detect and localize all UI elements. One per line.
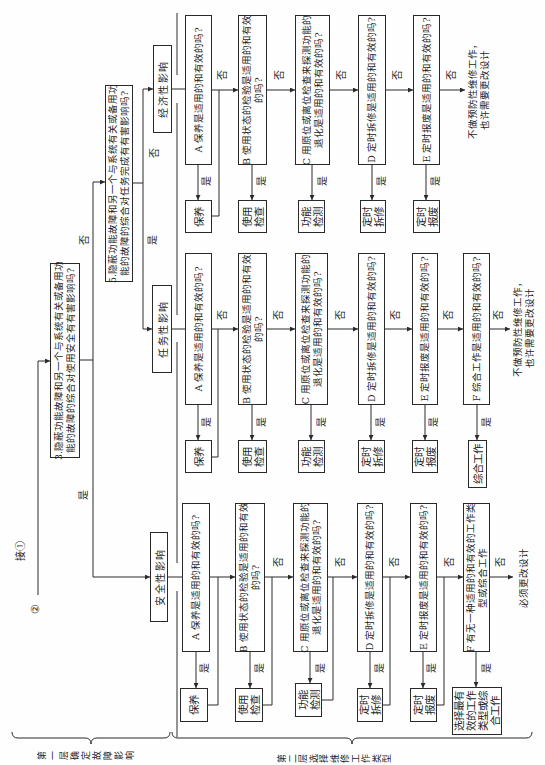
- economic-question-c: C 用原位或离位检查来探测功能的 退化是适用的和有效的吗?: [295, 15, 330, 165]
- economic-c-no-label: 否: [337, 70, 347, 80]
- mission-b-no-label: 否: [274, 310, 284, 320]
- safety-b-no-label: 否: [274, 557, 284, 567]
- mission-effect-box: 任务性影响: [152, 285, 172, 373]
- economic-task-functional-check: 功能 检测: [298, 200, 325, 233]
- safety-question-f: F 有无一种适用的和有效的工作类 型或综合工作: [463, 503, 490, 652]
- safety-effect-box: 安全性影响: [150, 532, 168, 622]
- mission-task-servicing: 保养: [185, 440, 212, 473]
- mission-question-a: A 保养是适用的和有效的吗?: [185, 253, 212, 405]
- safety-e-no-label: 否: [445, 557, 455, 567]
- economic-question-e: E 定时报废是适用的和有效的吗?: [413, 15, 440, 165]
- safety-task-discard: 定时 报废: [410, 688, 437, 722]
- mission-task-discard: 定时 报废: [412, 440, 438, 473]
- safety-task-restoration: 定时 拆修: [357, 688, 383, 722]
- layer-2-label: 第二层选择维修工作类型: [277, 751, 393, 764]
- safety-d-yes-label: 是: [375, 663, 385, 673]
- economic-task-servicing: 保养: [185, 200, 212, 233]
- mission-question-b: B 使用状态的检验是适用的和有效 的吗?: [238, 253, 267, 405]
- economic-outcome: 不做预防性维修工作， 也许需要更改设计: [467, 41, 491, 139]
- layer-1-label: 第一层确定故障影响: [37, 748, 136, 761]
- question-3-no-label: 否: [80, 235, 90, 245]
- question-5-yes-label: 是: [148, 235, 158, 245]
- mission-c-no-label: 否: [336, 310, 346, 320]
- connector-circle-2: ②: [31, 604, 41, 614]
- safety-a-yes-label: 是: [200, 663, 210, 673]
- safety-f-yes-label: 是: [482, 663, 492, 673]
- mission-task-combination: 综合工作: [468, 440, 487, 488]
- economic-b-no-label: 否: [275, 70, 285, 80]
- economic-e-no-label: 否: [447, 70, 457, 80]
- mission-outcome: 不做预防性维修工作， 也许需要更改设计: [512, 279, 536, 377]
- flowchart-rotated-canvas: ② 接① 3.隐蔽功能故障和另一个与系统有关或备用功 能的故障的综合对使用安全有…: [0, 0, 545, 765]
- mission-a-yes-label: 是: [202, 417, 212, 427]
- economic-b-yes-label: 是: [257, 176, 267, 186]
- safety-b-yes-label: 是: [255, 663, 265, 673]
- safety-question-a: A 保养是适用的和有效的吗?: [182, 503, 210, 652]
- question-3-box: 3.隐蔽功能故障和另一个与系统有关或备用功 能的故障的综合对使用安全有有害影响吗…: [50, 263, 80, 458]
- mission-question-e: E 定时报废是适用的和有效的吗?: [412, 253, 438, 405]
- mission-b-yes-label: 是: [257, 417, 267, 427]
- economic-c-yes-label: 是: [318, 176, 328, 186]
- economic-d-yes-label: 是: [377, 176, 387, 186]
- mission-d-no-label: 否: [391, 310, 401, 320]
- mission-c-yes-label: 是: [317, 417, 327, 427]
- mission-e-yes-label: 是: [429, 417, 439, 427]
- safety-question-b: B 使用状态的检验是适用的和有效 的吗?: [235, 503, 265, 652]
- safety-question-c: C 用原位或离位检查来探测功能的 退化是适用的和有效的吗?: [293, 503, 328, 652]
- economic-question-d: D 定时拆修是适用的和有效的吗?: [358, 15, 386, 165]
- safety-c-yes-label: 是: [316, 663, 326, 673]
- mission-d-yes-label: 是: [376, 417, 386, 427]
- question-5-no-label: 否: [150, 148, 160, 158]
- mission-task-restoration: 定时 拆修: [358, 440, 385, 473]
- connect-to-1-label: 接①: [16, 541, 26, 561]
- safety-task-functional-check: 功能 检测: [295, 683, 322, 717]
- mission-e-no-label: 否: [444, 310, 454, 320]
- mission-question-d: D 定时拆修是适用的和有效的吗?: [358, 253, 385, 405]
- question-5-box: 5.隐蔽功能故障和另一个与系统有关或备用功 能的故障的综合对任务完成有有害影响吗…: [105, 85, 133, 282]
- mission-task-operational-check: 使用 检查: [238, 440, 267, 473]
- economic-a-yes-label: 是: [202, 176, 212, 186]
- safety-task-servicing: 保养: [180, 688, 208, 722]
- economic-task-restoration: 定时 拆修: [360, 200, 386, 233]
- mission-a-no-label: 否: [218, 310, 228, 320]
- safety-d-no-label: 否: [390, 557, 400, 567]
- economic-d-no-label: 否: [393, 70, 403, 80]
- mission-question-f: F 综合工作是适用的和有效的吗?: [463, 253, 490, 405]
- economic-question-a: A 保养是适用的和有效的吗?: [185, 15, 212, 165]
- safety-e-yes-label: 是: [427, 663, 437, 673]
- safety-question-d: D 定时拆修是适用的和有效的吗?: [357, 503, 383, 652]
- economic-effect-box: 经济性影响: [153, 45, 172, 133]
- mission-task-functional-check: 功能 检测: [298, 440, 325, 473]
- mission-question-c: C 用原位或离位检查来探测功能的 退化是适用的和有效的吗?: [295, 253, 328, 405]
- safety-f-no-label: 否: [496, 557, 506, 567]
- economic-e-yes-label: 是: [431, 176, 441, 186]
- safety-question-e: E 定时报废是适用的和有效的吗?: [410, 503, 437, 652]
- flowchart: ② 接① 3.隐蔽功能故障和另一个与系统有关或备用功 能的故障的综合对使用安全有…: [0, 0, 545, 765]
- economic-task-discard: 定时 报废: [413, 200, 440, 233]
- mission-f-yes-label: 是: [482, 417, 492, 427]
- economic-task-operational-check: 使用 检查: [238, 200, 267, 233]
- mission-f-no-label: 否: [494, 310, 504, 320]
- economic-a-no-label: 否: [218, 70, 228, 80]
- question-3-yes-label: 是: [79, 490, 89, 500]
- safety-outcome: 必须更改设计: [518, 539, 530, 617]
- safety-c-no-label: 否: [336, 557, 346, 567]
- economic-question-b: B 使用状态的检验是适用的和有效 的吗?: [238, 15, 267, 165]
- safety-task-operational-check: 使用 检查: [235, 688, 263, 722]
- safety-task-most-effective: 选择最有 效的工作 类型或综 合工作: [452, 687, 502, 735]
